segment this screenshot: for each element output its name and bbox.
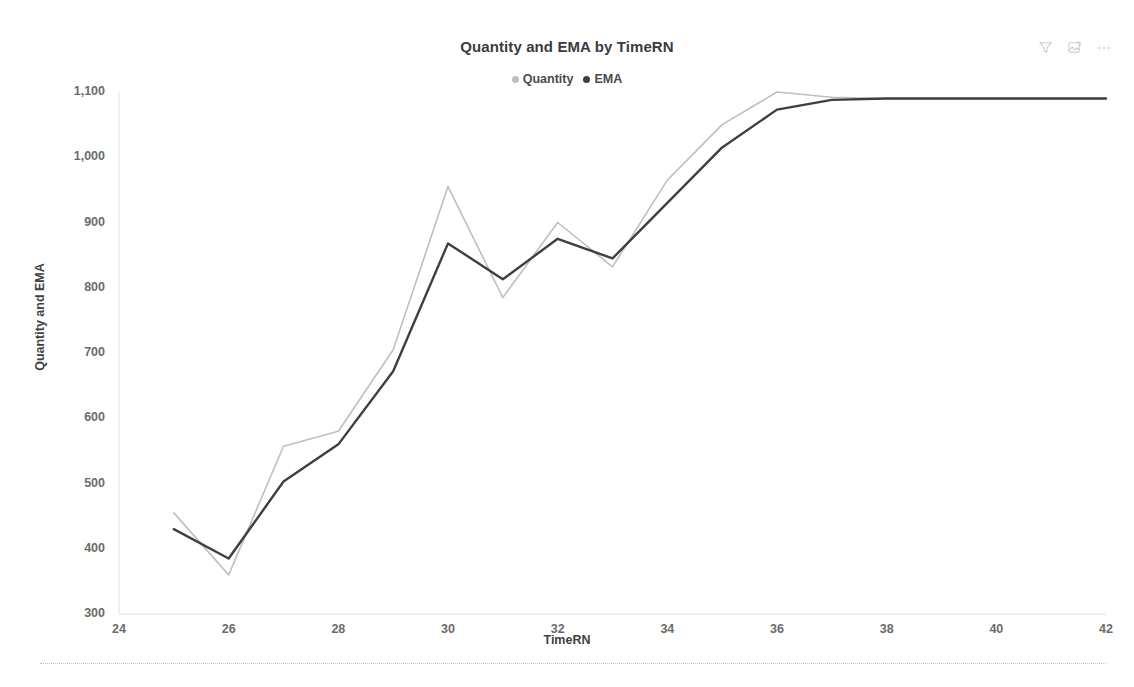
focus-mode-icon[interactable] (1067, 40, 1082, 55)
chart-legend: Quantity EMA (0, 72, 1134, 86)
legend-label-ema: EMA (594, 72, 622, 86)
y-tick-label: 300 (35, 606, 105, 620)
x-tick-label: 26 (199, 622, 259, 636)
x-tick-label: 30 (418, 622, 478, 636)
y-tick-label: 600 (35, 410, 105, 424)
legend-swatch-ema (583, 76, 590, 83)
page-title: Quantity and EMA by TimeRN (0, 38, 1134, 55)
legend-item-quantity[interactable]: Quantity (512, 72, 574, 86)
plot-area (0, 0, 1134, 687)
x-tick-label: 38 (857, 622, 917, 636)
card-bottom-divider (40, 663, 1106, 665)
y-tick-label: 500 (35, 476, 105, 490)
y-tick-label: 1,000 (35, 149, 105, 163)
chart-toolbar (1038, 40, 1112, 55)
y-tick-label: 400 (35, 541, 105, 555)
x-tick-label: 24 (89, 622, 149, 636)
filter-icon[interactable] (1038, 40, 1053, 55)
y-tick-label: 800 (35, 280, 105, 294)
y-tick-label: 900 (35, 215, 105, 229)
x-tick-label: 36 (747, 622, 807, 636)
legend-swatch-quantity (512, 76, 519, 83)
x-tick-label: 34 (637, 622, 697, 636)
series-line-quantity (174, 92, 1106, 575)
series-line-ema (174, 99, 1106, 559)
x-tick-label: 28 (308, 622, 368, 636)
legend-label-quantity: Quantity (523, 72, 574, 86)
y-tick-label: 1,100 (35, 84, 105, 98)
chart-card: Quantity and EMA by TimeRN Quantity EMA (0, 0, 1134, 687)
x-tick-label: 42 (1076, 622, 1134, 636)
y-axis-title: Quantity and EMA (33, 237, 47, 397)
y-tick-label: 700 (35, 345, 105, 359)
x-tick-label: 32 (528, 622, 588, 636)
axis-lines (119, 92, 1106, 614)
more-options-icon[interactable] (1096, 40, 1112, 55)
legend-item-ema[interactable]: EMA (583, 72, 622, 86)
x-tick-label: 40 (966, 622, 1026, 636)
